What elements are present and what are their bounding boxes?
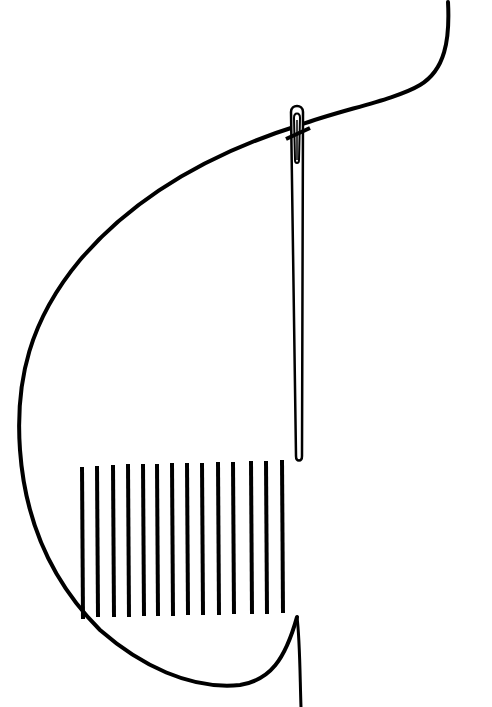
satin-stitches bbox=[82, 460, 283, 619]
thread-tail bbox=[297, 617, 301, 707]
needle-icon bbox=[286, 106, 310, 461]
needle-thread-illustration bbox=[0, 0, 492, 707]
